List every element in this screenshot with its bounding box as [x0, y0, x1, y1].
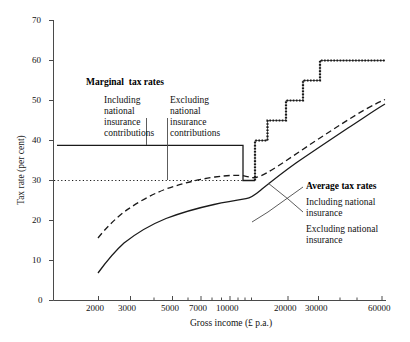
x-tick-60000: 60000 [368, 303, 391, 313]
x-tick-7000: 7000 [189, 303, 207, 313]
y-tick-70: 70 [32, 15, 41, 25]
x-tick-2000: 2000 [86, 303, 104, 313]
series-marginal-excluding-ni-outline [255, 61, 385, 181]
marginal-excluding-line4: contributions [170, 128, 220, 139]
marginal-including-line1: Including [104, 95, 140, 106]
chart-canvas [0, 0, 410, 342]
marginal-excluding-line1: Excluding [170, 95, 209, 106]
marginal-including-line3: insurance [104, 117, 140, 128]
y-tick-0: 0 [38, 295, 43, 305]
y-tick-20: 20 [32, 215, 41, 225]
leader-line-average-including [252, 187, 303, 222]
average-including-line2: insurance [306, 208, 342, 219]
y-tick-60: 60 [32, 55, 41, 65]
y-tick-40: 40 [32, 135, 41, 145]
x-tick-20000: 20000 [274, 303, 297, 313]
marginal-including-line2: national [104, 106, 135, 117]
x-axis-title: Gross income (£ p.a.) [190, 318, 272, 328]
leader-lines-average [252, 183, 303, 222]
figure-tax-rate-chart: 70 60 50 40 30 20 10 0 2000 3000 5000 70… [0, 0, 410, 342]
y-axis-ticks [49, 21, 54, 301]
marginal-excluding-line3: insurance [170, 117, 206, 128]
marginal-excluding-line2: national [170, 106, 201, 117]
y-tick-50: 50 [32, 95, 41, 105]
x-tick-10000: 10000 [216, 303, 239, 313]
axis-lines [54, 20, 387, 301]
y-axis-title: Tax rate (per cent) [16, 135, 26, 205]
x-tick-30000: 30000 [305, 303, 328, 313]
x-tick-5000: 5000 [161, 303, 179, 313]
x-tick-3000: 3000 [118, 303, 136, 313]
x-axis-ticks [99, 296, 383, 301]
leader-line-average-excluding [268, 183, 303, 212]
marginal-tax-rates-heading: Marginal tax rates [86, 77, 164, 87]
average-including-line1: Including national [306, 197, 375, 208]
average-tax-rates-heading: Average tax rates [306, 181, 377, 191]
average-excluding-line2: insurance [306, 235, 342, 246]
y-tick-30: 30 [32, 175, 41, 185]
y-tick-10: 10 [32, 255, 41, 265]
marginal-including-line4: contributions [104, 128, 154, 139]
average-excluding-line1: Excluding national [306, 224, 378, 235]
